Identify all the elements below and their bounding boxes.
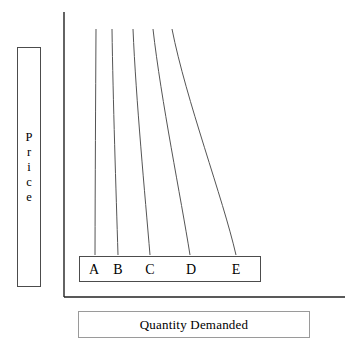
price-letter-r: r bbox=[27, 145, 31, 160]
demand-curve-a bbox=[95, 29, 96, 255]
plot-area bbox=[0, 0, 357, 349]
price-letter-i: i bbox=[27, 160, 30, 175]
curve-label-d: D bbox=[183, 261, 199, 278]
curve-label-c: C bbox=[142, 261, 158, 278]
demand-curves-figure: P r i c e A B C D E Quantity Demanded bbox=[0, 0, 357, 349]
quantity-axis-label-text: Quantity Demanded bbox=[140, 317, 248, 333]
curve-label-a: A bbox=[86, 261, 102, 278]
demand-curve-e bbox=[172, 29, 236, 255]
price-letter-e: e bbox=[26, 190, 32, 205]
curve-label-b: B bbox=[110, 261, 126, 278]
demand-curve-b bbox=[112, 29, 118, 255]
curve-labels-box: A B C D E bbox=[79, 256, 261, 282]
demand-curve-c bbox=[133, 29, 150, 255]
curve-label-e: E bbox=[228, 261, 244, 278]
price-axis-label-box: P r i c e bbox=[17, 47, 41, 287]
price-letter-p: P bbox=[26, 130, 33, 145]
quantity-axis-label-box: Quantity Demanded bbox=[78, 311, 310, 338]
demand-curve-d bbox=[153, 29, 190, 255]
price-letter-c: c bbox=[26, 175, 32, 190]
